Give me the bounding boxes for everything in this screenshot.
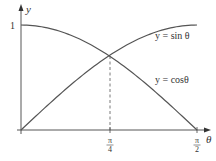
x-axis-label: θ [206,133,212,145]
sin-label: y = sin θ [155,30,190,41]
y-axis-label: y [25,3,31,15]
y-tick-label-1: 1 [10,20,15,31]
cos-label: y = cosθ [155,74,189,85]
x-tick-label-pi-2-den: 2 [195,145,199,154]
x-tick-label-pi-2-num: π [195,136,199,145]
x-axis-arrow-icon [204,128,211,133]
trig-chart: y 1 θ y = sin θ y = cosθ π 4 π 2 [0,0,216,161]
x-tick-label-pi-4-num: π [108,136,112,145]
x-tick-label-pi-4-den: 4 [108,145,112,154]
y-axis-arrow-icon [19,4,24,11]
